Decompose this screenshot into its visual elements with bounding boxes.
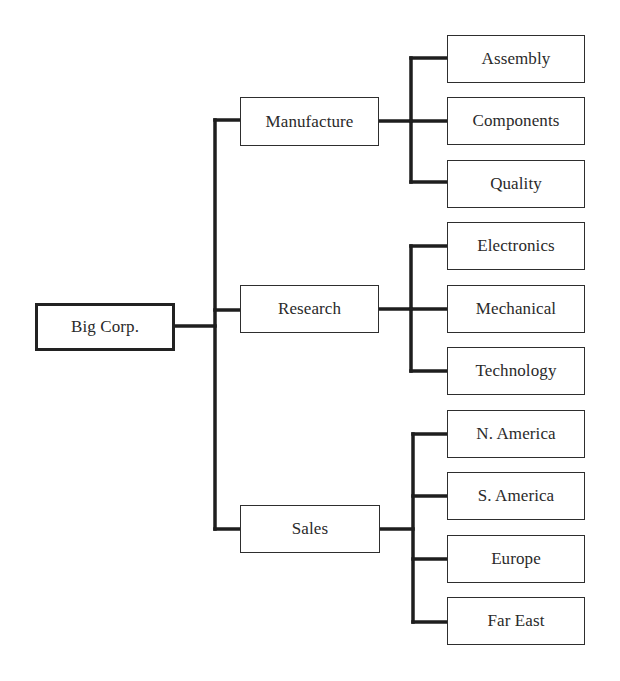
node-n-america: N. America [447, 410, 585, 458]
node-label: Quality [490, 174, 542, 194]
node-electronics: Electronics [447, 222, 585, 270]
node-label: Components [473, 111, 560, 131]
node-components: Components [447, 97, 585, 145]
node-technology: Technology [447, 347, 585, 395]
node-label: Research [278, 299, 341, 319]
node-far-east: Far East [447, 597, 585, 645]
node-label: Assembly [482, 49, 551, 69]
node-label: Electronics [477, 236, 555, 256]
node-mechanical: Mechanical [447, 285, 585, 333]
node-label: Sales [292, 519, 328, 539]
node-label: Manufacture [266, 112, 354, 132]
org-chart: Big Corp. Manufacture Research Sales Ass… [0, 0, 620, 681]
node-label: Far East [488, 611, 545, 631]
node-label: N. America [476, 424, 555, 444]
node-europe: Europe [447, 535, 585, 583]
node-label: Europe [491, 549, 541, 569]
node-s-america: S. America [447, 472, 585, 520]
node-assembly: Assembly [447, 35, 585, 83]
node-sales: Sales [240, 505, 380, 553]
node-manufacture: Manufacture [240, 97, 379, 146]
node-label: S. America [478, 486, 555, 506]
node-label: Technology [475, 361, 556, 381]
node-big-corp: Big Corp. [35, 303, 175, 351]
node-quality: Quality [447, 160, 585, 208]
node-label: Big Corp. [71, 317, 139, 337]
node-label: Mechanical [476, 299, 556, 319]
node-research: Research [240, 285, 379, 333]
